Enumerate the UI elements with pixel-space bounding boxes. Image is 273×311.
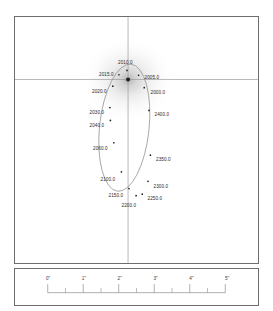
scale-tick-label-0: 0" (46, 277, 50, 282)
scale-bar-canvas (15, 269, 258, 305)
orbit-plot-canvas (15, 17, 258, 263)
epoch-label-2250: 2250.0 (148, 197, 163, 202)
orbit-figure: 2000.0 2005.0 2010.0 2015.0 2020.0 2030.… (0, 0, 273, 311)
scale-tick-label-4: 4" (189, 277, 193, 282)
scale-tick-label-1: 1" (82, 277, 86, 282)
scale-tick-label-2: 2" (118, 277, 122, 282)
orbit-plot-panel: 2000.0 2005.0 2010.0 2015.0 2020.0 2030.… (14, 16, 259, 264)
scale-bar-panel: 0" 1" 2" 3" 4" 5" (14, 268, 259, 306)
epoch-label-2350: 2350.0 (156, 158, 171, 163)
epoch-label-2400: 2400.0 (155, 113, 170, 118)
scale-tick-label-5: 5" (225, 277, 229, 282)
epoch-label-2000: 2000.0 (151, 91, 166, 96)
scale-bar-minor-ticks (65, 288, 207, 293)
epoch-label-2100: 2100.0 (101, 178, 116, 183)
epoch-label-2010: 2010.0 (118, 61, 133, 66)
epoch-label-2150: 2150.0 (109, 194, 124, 199)
epoch-label-2020: 2020.0 (92, 90, 107, 95)
epoch-label-2040: 2040.0 (90, 124, 105, 129)
epoch-label-2030: 2030.0 (90, 111, 105, 116)
epoch-label-2005: 2005.0 (145, 76, 160, 81)
epoch-label-2060: 2060.0 (93, 147, 108, 152)
scale-tick-label-3: 3" (153, 277, 157, 282)
primary-star-marker (126, 78, 130, 82)
epoch-label-2200: 2200.0 (122, 204, 137, 209)
epoch-label-2300: 2300.0 (154, 185, 169, 190)
epoch-label-2015: 2015.0 (99, 73, 114, 78)
